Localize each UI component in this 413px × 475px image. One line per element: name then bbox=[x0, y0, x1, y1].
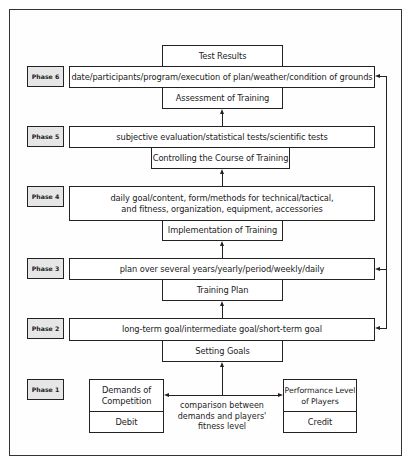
comparison-line3: fitness level bbox=[170, 422, 274, 433]
arrow-right-icon bbox=[278, 393, 283, 397]
setting-goals-box: Setting Goals bbox=[162, 340, 283, 362]
performance-box: Performance Level of Players bbox=[283, 379, 357, 412]
comparison-line1: comparison between bbox=[170, 401, 274, 412]
performance-title-line1: Performance Level bbox=[285, 385, 356, 396]
implementation-text: Implementation of Training bbox=[168, 225, 277, 236]
setting-goals-text: Setting Goals bbox=[195, 346, 249, 357]
feedback-to-phase-3 bbox=[380, 269, 387, 270]
feedback-to-phase-6 bbox=[380, 76, 387, 77]
phase-5-label: Phase 5 bbox=[27, 126, 64, 147]
demands-box: Demands of Competition bbox=[89, 379, 164, 412]
phase-6-detail-text: date/participants/program/execution of p… bbox=[71, 72, 372, 83]
connector-5-6 bbox=[222, 113, 223, 126]
test-results-text: Test Results bbox=[199, 51, 247, 62]
phase-3-detail-box: plan over several years/yearly/period/we… bbox=[69, 258, 375, 280]
assessment-box: Assessment of Training bbox=[162, 87, 283, 109]
connector-1-2 bbox=[222, 366, 223, 396]
phase-5-detail-text: subjective evaluation/statistical tests/… bbox=[116, 132, 327, 143]
phase-3-detail-text: plan over several years/yearly/period/we… bbox=[120, 264, 325, 275]
arrow-up-icon bbox=[220, 301, 224, 306]
phase-1-label: Phase 1 bbox=[27, 379, 64, 400]
phase-6-detail-box: date/participants/program/execution of p… bbox=[69, 66, 375, 88]
controlling-text: Controlling the Course of Training bbox=[153, 153, 289, 164]
credit-text: Credit bbox=[308, 417, 332, 428]
arrow-left-icon bbox=[375, 267, 380, 271]
phase-3-label: Phase 3 bbox=[27, 258, 64, 279]
phase-4-detail-box: daily goal/content, form/methods for tec… bbox=[69, 186, 375, 221]
demands-title-line1: Demands of bbox=[102, 385, 151, 396]
controlling-box: Controlling the Course of Training bbox=[151, 147, 290, 169]
comparison-line2: demands and players' bbox=[170, 412, 274, 423]
phase-4-label: Phase 4 bbox=[27, 186, 64, 207]
phase-2-detail-box: long-term goal/intermediate goal/short-t… bbox=[69, 318, 375, 341]
arrow-left-icon bbox=[375, 326, 380, 330]
arrow-up-icon bbox=[220, 169, 224, 174]
phase-2-detail-text: long-term goal/intermediate goal/short-t… bbox=[122, 324, 322, 335]
phase-5-detail-box: subjective evaluation/statistical tests/… bbox=[69, 126, 375, 148]
credit-box: Credit bbox=[283, 411, 357, 433]
connector-4-5 bbox=[222, 173, 223, 187]
test-results-box: Test Results bbox=[162, 45, 283, 67]
arrow-left-icon bbox=[164, 393, 169, 397]
arrow-up-icon bbox=[220, 362, 224, 367]
assessment-text: Assessment of Training bbox=[176, 93, 270, 104]
phase-6-label: Phase 6 bbox=[27, 66, 64, 87]
arrow-left-icon bbox=[375, 74, 380, 78]
comparison-note: comparison between demands and players' … bbox=[170, 401, 274, 433]
implementation-box: Implementation of Training bbox=[162, 220, 283, 241]
connector-2-3 bbox=[222, 305, 223, 319]
phase-4-detail-line1: daily goal/content, form/methods for tec… bbox=[110, 193, 333, 204]
training-plan-box: Training Plan bbox=[162, 279, 283, 301]
arrow-up-icon bbox=[220, 109, 224, 114]
training-plan-text: Training Plan bbox=[197, 285, 249, 296]
feedback-line bbox=[386, 76, 387, 329]
debit-text: Debit bbox=[116, 417, 138, 428]
demands-title-line2: Competition bbox=[102, 396, 152, 407]
performance-title-line2: of Players bbox=[301, 396, 338, 407]
comparison-connector bbox=[169, 395, 278, 396]
connector-3-4 bbox=[222, 245, 223, 258]
feedback-to-phase-2 bbox=[380, 328, 387, 329]
phase-2-label: Phase 2 bbox=[27, 318, 64, 339]
debit-box: Debit bbox=[89, 411, 164, 433]
phase-4-detail-line2: and fitness, organization, equipment, ac… bbox=[121, 204, 322, 215]
arrow-up-icon bbox=[220, 241, 224, 246]
